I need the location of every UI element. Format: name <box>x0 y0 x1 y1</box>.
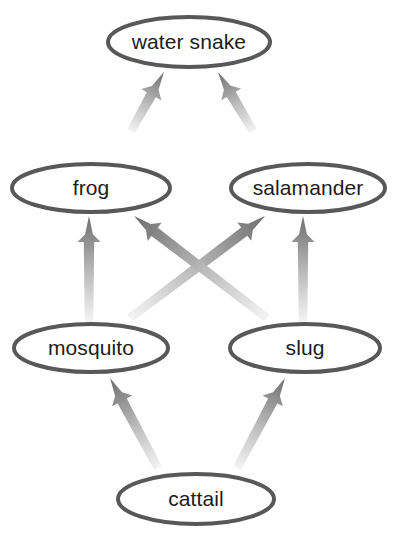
node-label-cattail: cattail <box>168 487 224 510</box>
arrow-cattail-to-mosquito <box>110 378 162 470</box>
node-frog[interactable]: frog <box>12 164 170 212</box>
arrow-cattail-to-slug <box>233 378 285 470</box>
arrow-slug-to-salamander <box>292 216 315 322</box>
node-mosquito[interactable]: mosquito <box>14 324 168 372</box>
node-slug[interactable]: slug <box>230 324 380 372</box>
food-web-diagram: water snake frog salamander mosquito slu… <box>0 0 394 543</box>
node-cattail[interactable]: cattail <box>118 474 274 524</box>
node-label-frog: frog <box>73 176 110 199</box>
arrow-salamander-to-water-snake <box>218 72 257 133</box>
arrow-frog-to-water-snake <box>127 72 164 133</box>
node-label-mosquito: mosquito <box>48 336 134 359</box>
node-label-slug: slug <box>286 336 325 359</box>
node-salamander[interactable]: salamander <box>231 164 385 212</box>
food-web-canvas: water snake frog salamander mosquito slu… <box>0 0 394 543</box>
node-label-water-snake: water snake <box>131 30 246 53</box>
arrow-layer <box>78 72 315 470</box>
arrow-mosquito-to-frog <box>78 216 101 322</box>
node-label-salamander: salamander <box>253 176 364 199</box>
node-water-snake[interactable]: water snake <box>108 17 270 67</box>
